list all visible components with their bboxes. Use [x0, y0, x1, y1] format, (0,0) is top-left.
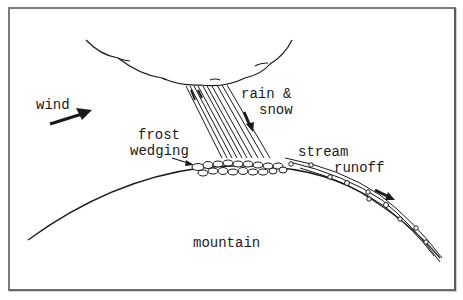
label-wind: wind — [36, 97, 70, 113]
label-mountain: mountain — [193, 235, 260, 251]
label-stream: stream — [298, 144, 348, 160]
weathering-diagram: wind rain & snow frost wedging stream ru… — [0, 0, 463, 300]
precipitation-arrow-icon — [244, 112, 254, 132]
label-frost: frost — [138, 127, 180, 143]
frost-arrow-icon — [172, 158, 194, 166]
cloud — [86, 40, 292, 86]
rock-pile — [192, 160, 287, 176]
label-runoff: runoff — [334, 160, 384, 176]
label-wedging: wedging — [130, 143, 189, 159]
label-snow: snow — [259, 102, 293, 118]
label-rain: rain & — [241, 86, 292, 102]
